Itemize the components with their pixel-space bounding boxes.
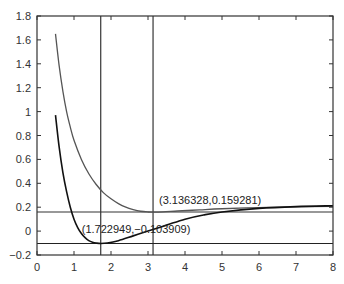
- x-tick-label: 4: [182, 261, 188, 273]
- y-tick-label: 1.2: [16, 82, 31, 94]
- x-tick-label: 7: [293, 261, 299, 273]
- y-tick-label: 0: [25, 225, 31, 237]
- y-tick-label: 1.6: [16, 34, 31, 46]
- x-tick-label: 2: [108, 261, 114, 273]
- x-tick-label: 5: [219, 261, 225, 273]
- y-tick-label: 0.4: [16, 177, 31, 189]
- x-tick-label: 1: [71, 261, 77, 273]
- x-tick-label: 6: [256, 261, 262, 273]
- annotation-min-upper: (3.136328,0.159281): [159, 194, 261, 206]
- x-tick-label: 8: [330, 261, 336, 273]
- y-tick-label: −0.2: [9, 249, 31, 261]
- x-tick-label: 3: [145, 261, 151, 273]
- y-tick-label: 1: [25, 106, 31, 118]
- x-tick-label: 0: [34, 261, 40, 273]
- y-tick-label: 1.4: [16, 58, 31, 70]
- y-tick-label: 0.8: [16, 130, 31, 142]
- x-axis-tick-labels: 012345678: [34, 261, 336, 273]
- upper-curve: [56, 34, 334, 212]
- y-tick-label: 0.2: [16, 201, 31, 213]
- y-tick-label: 0.6: [16, 153, 31, 165]
- y-tick-label: 1.8: [16, 10, 31, 22]
- y-axis-tick-labels: −0.200.20.40.60.811.21.41.61.8: [9, 10, 31, 261]
- annotation-min-lower: (1.722949,−0.103909): [82, 223, 191, 235]
- line-chart: 012345678 −0.200.20.40.60.811.21.41.61.8…: [0, 0, 344, 284]
